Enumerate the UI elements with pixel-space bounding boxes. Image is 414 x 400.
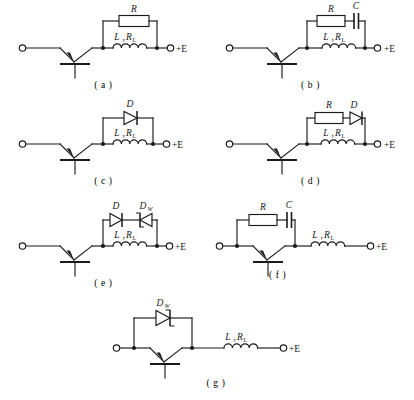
input-terminal [113, 345, 119, 351]
emitter-lead [150, 348, 164, 362]
label-diode-D: D [112, 201, 120, 211]
diode-D-triangle-icon [124, 112, 137, 125]
label-load-resistance-sub: L [133, 36, 137, 43]
supply-terminal [163, 141, 169, 147]
circuit-panel-c: D L , R L +E ( c ) [0, 98, 207, 193]
schematic-e: D D W L , R L +E [0, 198, 207, 280]
supply-terminal [367, 243, 373, 249]
circuit-panel-a: R L , R L +E ( a ) [0, 2, 207, 97]
label-load-resistance: R [323, 230, 330, 240]
label-load-separator: , [123, 32, 125, 42]
emitter-lead [267, 48, 281, 62]
label-load-separator: , [234, 332, 236, 342]
label-load-separator: , [123, 230, 125, 240]
label-resistor-R: R [130, 4, 137, 14]
label-supply-E: +E [376, 242, 387, 252]
input-terminal [216, 243, 222, 249]
panel-caption-f: ( f ) [269, 270, 286, 280]
circuit-panel-e: D D W L , R L +E ( e ) [0, 198, 207, 298]
collector-lead [74, 144, 92, 158]
schematic-a: R L , R L +E [0, 2, 207, 82]
resistor-R-symbol [315, 113, 343, 124]
label-resistor-R: R [327, 4, 334, 14]
label-zener-diode-Dw-sub: W [148, 205, 154, 212]
label-supply-E: +E [172, 140, 183, 150]
panel-caption-c: ( c ) [0, 176, 207, 186]
schematic-d: R D L , R L +E [207, 98, 414, 178]
label-load-L: L [224, 332, 230, 342]
label-load-L: L [113, 230, 119, 240]
supply-terminal [374, 141, 380, 147]
label-supply-E: +E [384, 44, 395, 54]
inductor-coil-icon [321, 140, 355, 144]
label-resistor-R: R [325, 100, 332, 110]
label-load-L: L [311, 230, 317, 240]
label-load-resistance-sub: L [133, 132, 137, 139]
label-load-resistance-sub: L [133, 234, 137, 241]
collector-lead [74, 246, 92, 260]
label-load-separator: , [321, 230, 323, 240]
collector-lead [267, 246, 285, 260]
panel-caption-d: ( d ) [207, 176, 414, 186]
circuit-panel-g: D W L , R L +E ( g ) [104, 296, 344, 400]
label-resistor-R: R [259, 202, 266, 212]
supply-terminal [167, 45, 173, 51]
label-load-L: L [113, 32, 119, 42]
supply-terminal [280, 345, 286, 351]
inductor-coil-icon [322, 44, 356, 48]
emitter-arrow-icon [67, 149, 75, 159]
panel-caption-e: ( e ) [0, 278, 207, 288]
input-terminal [19, 243, 25, 249]
label-load-resistance-sub: L [244, 336, 248, 343]
resistor-R-symbol [119, 16, 149, 27]
collector-lead [164, 348, 182, 362]
label-load-resistance: R [334, 128, 341, 138]
circuit-panel-f: R C L , R L +E ( f ) [207, 198, 414, 298]
emitter-lead [60, 48, 74, 62]
input-terminal [226, 141, 232, 147]
emitter-lead [60, 144, 74, 158]
label-load-L: L [113, 128, 119, 138]
label-supply-E: +E [384, 140, 395, 150]
label-zener-diode-Dw: D [139, 201, 147, 211]
inductor-coil-icon [224, 344, 258, 348]
label-load-resistance: R [125, 128, 132, 138]
label-diode-D: D [350, 100, 358, 110]
diode-D-triangle-icon [110, 214, 122, 227]
label-supply-E: +E [289, 344, 300, 354]
label-zener-diode-Dw: D [156, 298, 164, 308]
inductor-coil-icon [113, 44, 147, 48]
zener-diode-Dw-triangle-icon [140, 214, 152, 227]
label-capacitor-C: C [353, 1, 360, 11]
inductor-coil-icon [113, 140, 147, 144]
input-terminal [19, 45, 25, 51]
label-load-L: L [322, 128, 328, 138]
input-terminal [19, 141, 25, 147]
circuit-panel-d: R D L , R L +E ( d ) [207, 98, 414, 193]
inductor-coil-icon [113, 242, 147, 246]
collector-lead [281, 144, 299, 158]
label-load-resistance-sub: L [331, 234, 335, 241]
emitter-lead [253, 246, 267, 260]
circuit-figure-sheet: R L , R L +E ( a ) [0, 0, 414, 400]
label-load-resistance-sub: L [342, 132, 346, 139]
label-capacitor-C: C [286, 200, 293, 210]
label-load-separator: , [332, 128, 334, 138]
emitter-lead [60, 246, 74, 260]
circuit-panel-b: R C L , R L +E ( b ) [207, 2, 414, 97]
schematic-g: D W L , R L +E [104, 296, 344, 382]
panel-caption-a: ( a ) [0, 80, 207, 90]
supply-terminal [374, 45, 380, 51]
label-load-separator: , [123, 128, 125, 138]
label-diode-D: D [126, 99, 134, 109]
label-load-resistance: R [125, 32, 132, 42]
label-load-L: L [322, 32, 328, 42]
label-load-resistance: R [236, 332, 243, 342]
panel-caption-b: ( b ) [207, 80, 414, 90]
input-terminal [226, 45, 232, 51]
label-zener-diode-Dw-sub: W [165, 302, 171, 309]
label-supply-E: +E [175, 242, 186, 252]
panel-caption-g: ( g ) [96, 378, 336, 388]
label-load-separator: , [332, 32, 334, 42]
diode-D-triangle-icon [350, 112, 362, 125]
